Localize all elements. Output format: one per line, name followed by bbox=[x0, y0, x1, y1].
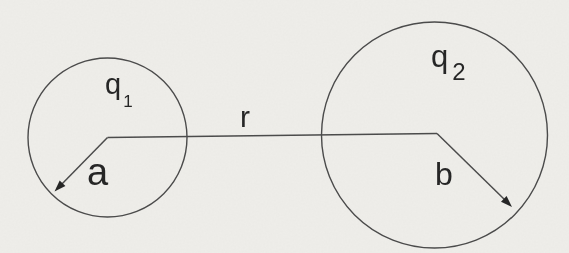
label-b: b bbox=[435, 156, 453, 192]
paper-texture bbox=[0, 0, 569, 253]
diagram-canvas: q1 q2 r a b bbox=[0, 0, 569, 253]
figure-two-charged-spheres: q1 q2 r a b bbox=[0, 0, 569, 253]
label-r: r bbox=[240, 100, 251, 133]
label-q2-subscript: 2 bbox=[452, 58, 466, 85]
label-q1-subscript: 1 bbox=[123, 92, 133, 111]
label-a: a bbox=[87, 151, 109, 193]
label-q1-symbol: q bbox=[105, 68, 122, 100]
label-q2-symbol: q bbox=[431, 39, 449, 74]
